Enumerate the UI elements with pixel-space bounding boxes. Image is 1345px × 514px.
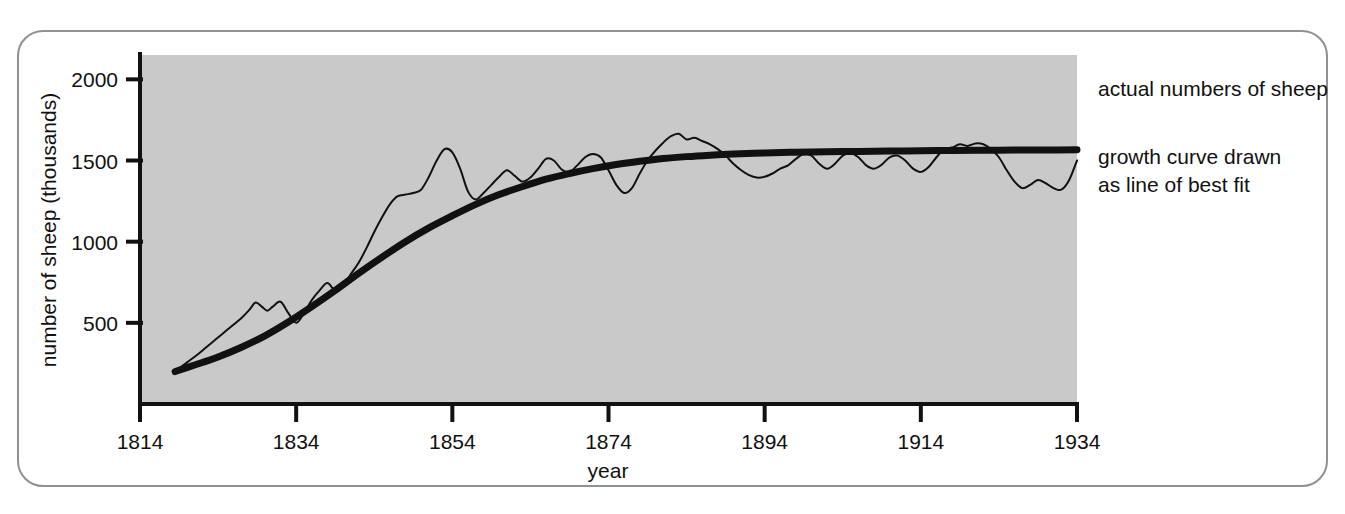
y-tick-label: 1500 (71, 150, 118, 173)
x-axis-ticks: 1814183418541874189419141934 (117, 402, 1101, 453)
sheep-population-chart: 500100015002000 181418341854187418941914… (0, 0, 1345, 514)
y-tick-label: 500 (83, 312, 118, 335)
x-tick-label: 1894 (741, 430, 788, 453)
x-axis-title: year (588, 459, 629, 482)
figure-root: 500100015002000 181418341854187418941914… (0, 0, 1345, 514)
legend-item-growth-curve-line1: growth curve drawn (1098, 145, 1281, 168)
legend-item-actual-numbers: actual numbers of sheep (1098, 77, 1328, 100)
legend-item-growth-curve-line2: as line of best fit (1098, 173, 1250, 196)
x-tick-label: 1914 (897, 430, 944, 453)
y-tick-label: 1000 (71, 231, 118, 254)
x-tick-label: 1934 (1054, 430, 1101, 453)
x-tick-label: 1834 (273, 430, 320, 453)
x-tick-label: 1854 (429, 430, 476, 453)
y-axis-ticks: 500100015002000 (71, 68, 143, 334)
x-tick-label: 1814 (117, 430, 164, 453)
y-tick-label: 2000 (71, 68, 118, 91)
plot-area-background (140, 55, 1077, 404)
x-tick-label: 1874 (585, 430, 632, 453)
y-axis-title: number of sheep (thousands) (37, 93, 60, 367)
